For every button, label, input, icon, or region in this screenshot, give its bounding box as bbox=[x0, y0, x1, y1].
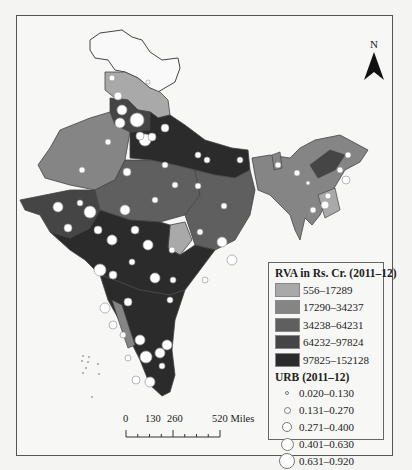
scale-tick-label: 0 bbox=[123, 413, 128, 424]
rva-swatch bbox=[275, 318, 300, 332]
urb-class-4: 0.401–0.630 bbox=[275, 436, 383, 453]
urb-circle-icon bbox=[284, 407, 291, 414]
urb-circle-icon bbox=[285, 391, 289, 395]
rva-class-label: 556–17289 bbox=[303, 284, 353, 296]
rva-legend-title: RVA in Rs. Cr. (2011–12) bbox=[275, 267, 383, 279]
rva-swatch bbox=[275, 335, 300, 349]
scale-tick-label: 130 bbox=[145, 413, 161, 424]
rva-class-4: 64232–97824 bbox=[275, 334, 383, 352]
urb-class-2: 0.131–0.270 bbox=[275, 402, 383, 419]
urb-circle-icon bbox=[281, 438, 294, 451]
rva-swatch bbox=[275, 300, 300, 314]
rva-class-3: 34238–64231 bbox=[275, 316, 383, 334]
rva-class-label: 64232–97824 bbox=[303, 336, 364, 348]
islands-dots bbox=[81, 355, 100, 398]
scale-tick-label: 520 Miles bbox=[212, 413, 254, 424]
urb-circle-icon bbox=[279, 453, 295, 469]
rva-class-label: 34238–64231 bbox=[303, 319, 364, 331]
urb-class-label: 0.131–0.270 bbox=[299, 404, 354, 416]
region-northeast bbox=[252, 135, 368, 240]
urb-class-5: 0.631–0.920 bbox=[275, 453, 383, 470]
urb-legend-title: URB (2011–12) bbox=[275, 371, 383, 383]
rva-class-5: 97825–152128 bbox=[275, 351, 383, 369]
scale-bar-ruler bbox=[119, 427, 229, 439]
urb-circle-icon bbox=[282, 422, 292, 432]
urb-class-label: 0.631–0.920 bbox=[299, 455, 354, 467]
map-legend: RVA in Rs. Cr. (2011–12) 556–17289 17290… bbox=[268, 262, 384, 440]
urb-class-label: 0.271–0.400 bbox=[299, 421, 354, 433]
rva-class-1: 556–17289 bbox=[275, 281, 383, 299]
rva-class-2: 17290–34237 bbox=[275, 299, 383, 317]
rva-swatch bbox=[275, 353, 300, 367]
urb-class-3: 0.271–0.400 bbox=[275, 419, 383, 436]
north-arrow-icon bbox=[362, 50, 386, 82]
north-label: N bbox=[362, 38, 386, 50]
rva-class-label: 17290–34237 bbox=[303, 301, 364, 313]
rva-swatch bbox=[275, 283, 300, 297]
urb-class-label: 0.020–0.130 bbox=[299, 387, 354, 399]
scale-tick-label: 260 bbox=[167, 413, 183, 424]
north-arrow: N bbox=[362, 38, 386, 86]
rva-class-label: 97825–152128 bbox=[303, 354, 369, 366]
urb-class-1: 0.020–0.130 bbox=[275, 385, 383, 402]
urb-class-label: 0.401–0.630 bbox=[299, 438, 354, 450]
